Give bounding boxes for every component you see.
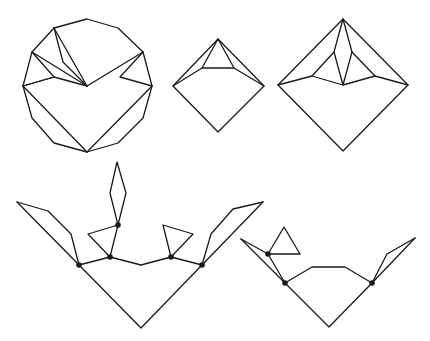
marked-vertex bbox=[107, 254, 113, 260]
right-v-figure bbox=[241, 227, 415, 327]
small-diamond-figure bbox=[173, 39, 264, 132]
large-diamond-figure bbox=[278, 19, 408, 151]
marked-vertex bbox=[199, 262, 205, 268]
marked-vertex bbox=[168, 254, 174, 260]
marked-vertex bbox=[265, 251, 271, 257]
left-v-figure bbox=[17, 162, 263, 328]
marked-vertex bbox=[76, 262, 82, 268]
marked-vertex bbox=[115, 222, 121, 228]
diagram-canvas bbox=[0, 0, 430, 341]
marked-vertex bbox=[369, 280, 375, 286]
dodecagon-figure bbox=[23, 19, 152, 152]
marked-vertex bbox=[282, 280, 288, 286]
